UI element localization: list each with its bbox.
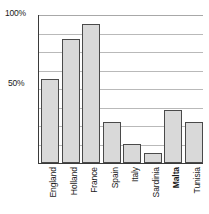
x-label-holland: Holland bbox=[69, 167, 79, 195]
x-label-spain: Spain bbox=[110, 167, 120, 188]
x-label-england: England bbox=[48, 167, 58, 198]
bar-chart: 100% 50% England Holland France Spain It… bbox=[0, 0, 209, 214]
x-label-sardinia: Sardinia bbox=[151, 167, 161, 197]
y-tick-label-50: 50% bbox=[8, 78, 24, 88]
bar-england bbox=[41, 79, 59, 163]
bar-spain bbox=[103, 122, 121, 163]
bar-malta bbox=[164, 110, 182, 163]
x-label-tunisia: Tunisia bbox=[192, 167, 202, 193]
x-label-france: France bbox=[89, 167, 99, 193]
x-label-malta: Malta bbox=[171, 167, 181, 188]
x-axis-labels: England Holland France Spain Italy Sardi… bbox=[38, 164, 203, 214]
bar-italy bbox=[123, 144, 141, 163]
bar-holland bbox=[62, 39, 80, 163]
bars-layer bbox=[38, 15, 203, 163]
y-tick-label-100: 100% bbox=[5, 8, 26, 18]
bar-tunisia bbox=[185, 122, 203, 163]
bar-sardinia bbox=[144, 153, 162, 163]
bar-france bbox=[82, 24, 100, 163]
x-label-italy: Italy bbox=[130, 167, 140, 182]
